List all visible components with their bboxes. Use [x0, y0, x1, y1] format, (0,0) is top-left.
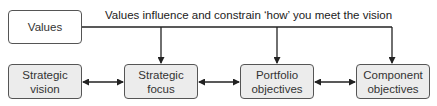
portfolio-objectives-box: Portfolioobjectives [240, 64, 314, 99]
portfolio-objectives-line1: Portfolio [256, 69, 298, 81]
strategic-vision-line1: Strategic [22, 69, 67, 81]
values-caption: Values influence and constrain ‘how’ you… [105, 9, 392, 21]
component-objectives-line1: Component [363, 69, 422, 81]
strategic-focus-box: Strategicfocus [124, 64, 198, 99]
strategic-vision-line2: vision [30, 83, 59, 95]
component-objectives-line2: objectives [367, 83, 418, 95]
strategic-focus-line1: Strategic [138, 69, 183, 81]
strategic-focus-line2: focus [147, 83, 175, 95]
component-objectives-box: Componentobjectives [356, 64, 430, 99]
portfolio-objectives-line2: objectives [251, 83, 302, 95]
strategic-vision-box: Strategicvision [8, 64, 82, 99]
values-label: Values [28, 20, 62, 34]
values-box: Values [8, 10, 82, 44]
